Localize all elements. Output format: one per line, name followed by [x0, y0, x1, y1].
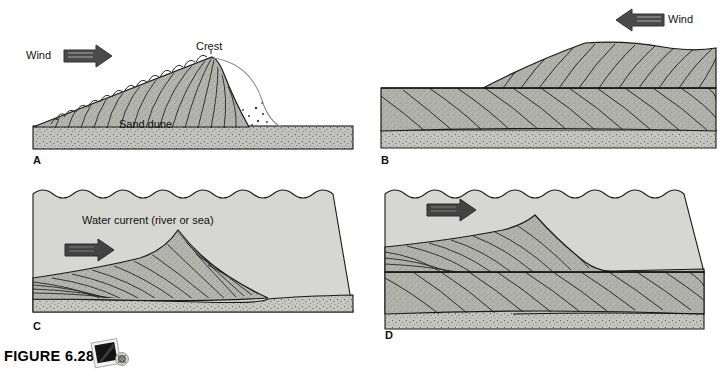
substrate-layer-b	[381, 130, 716, 148]
wind-label-b: Wind	[668, 13, 693, 25]
panel-b-diagram	[363, 0, 726, 172]
figure-6-28: Wind Crest Sand dune A	[0, 0, 726, 371]
panel-a: Wind Crest Sand dune A	[0, 0, 363, 172]
panel-c-diagram	[0, 172, 363, 340]
panel-c: Water current (river or sea) C	[0, 172, 363, 340]
panel-b: Wind B	[363, 0, 726, 172]
figure-caption-label: FIGURE 6.28	[4, 348, 94, 364]
cd-rom-icon	[88, 337, 132, 369]
crest-label-a: Crest	[196, 40, 222, 52]
lower-cross-bed-set-b	[381, 88, 716, 131]
wind-label-a: Wind	[26, 49, 51, 61]
lower-cross-bed-set-d	[385, 272, 704, 314]
panel-d: D	[363, 172, 726, 340]
wind-arrow-b	[616, 9, 664, 31]
upper-dune-set-b	[483, 42, 716, 88]
panel-letter-c: C	[33, 321, 41, 332]
water-current-label-c: Water current (river or sea)	[82, 214, 214, 226]
panel-d-diagram	[363, 172, 726, 340]
panel-letter-b: B	[381, 155, 389, 166]
panel-letter-d: D	[385, 330, 393, 341]
panel-letter-a: A	[33, 155, 41, 166]
sand-dune-label-a: Sand dune	[119, 118, 172, 130]
panel-a-diagram	[0, 0, 363, 172]
wind-arrow-a	[64, 45, 112, 67]
substrate-layer-a	[33, 126, 353, 149]
